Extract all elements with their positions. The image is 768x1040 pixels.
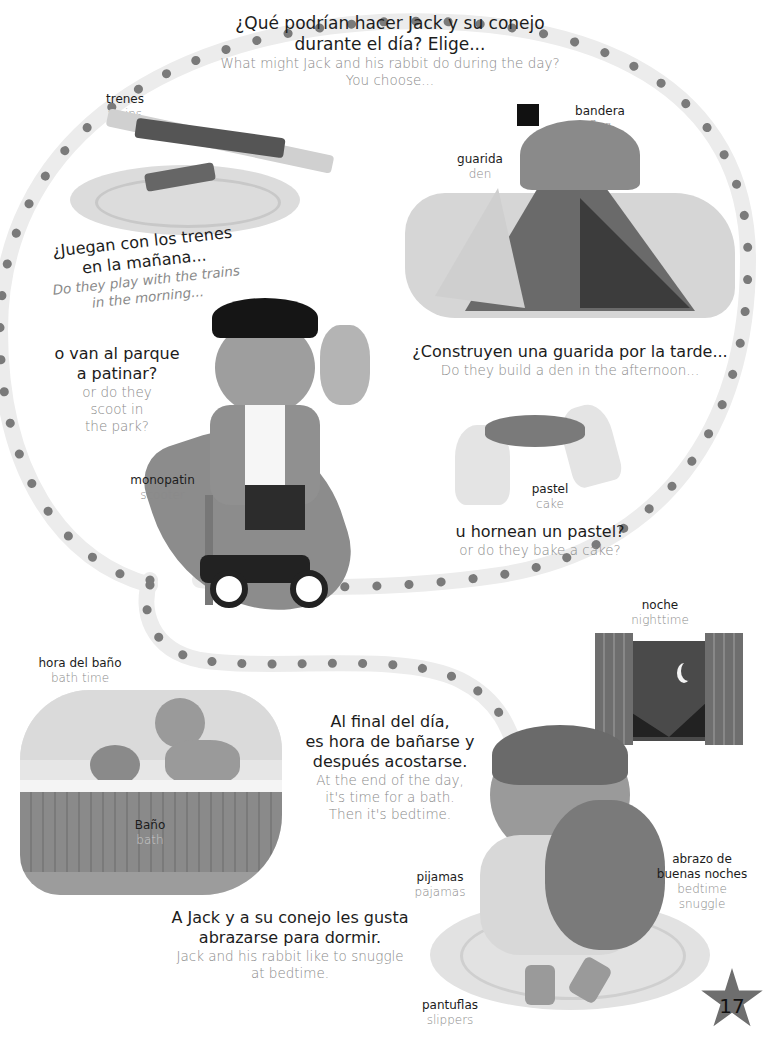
label-scooter: monopatin scooter	[125, 473, 200, 503]
label-cake: pastel cake	[520, 482, 580, 512]
intro-es-line2: durante el día? Elige...	[170, 34, 610, 55]
bath-illustration	[20, 690, 282, 895]
plush-rabbit	[545, 800, 665, 950]
page-number-badge: 17	[700, 968, 764, 1032]
label-pajamas: pijamas pajamas	[405, 870, 475, 900]
intro-text: ¿Qué podrían hacer Jack y su conejo dura…	[170, 13, 610, 89]
intro-en-line2: You choose...	[170, 72, 610, 89]
trains-illustration	[60, 120, 330, 240]
intro-en-line1: What might Jack and his rabbit do during…	[170, 55, 610, 72]
den-illustration	[405, 98, 735, 328]
label-bath-time: hora del baño bath time	[30, 656, 130, 686]
page-number: 17	[700, 994, 764, 1018]
label-bath: Baño bath	[120, 818, 180, 848]
scooter-boy-illustration	[140, 295, 380, 625]
pirate-flag	[517, 104, 539, 126]
label-night: noche nighttime	[615, 598, 705, 628]
label-slippers: pantuflas slippers	[415, 998, 485, 1028]
moon-icon	[681, 661, 695, 681]
caption-den: ¿Construyen una guarida por la tarde... …	[395, 342, 745, 379]
intro-es-line1: ¿Qué podrían hacer Jack y su conejo	[170, 13, 610, 34]
caption-bedtime: A Jack y a su conejo les gusta abrazarse…	[160, 908, 420, 982]
label-snuggle: abrazo de buenas noches bedtime snuggle	[652, 852, 752, 912]
caption-cake: u hornean un pastel? or do they bake a c…	[420, 522, 660, 559]
